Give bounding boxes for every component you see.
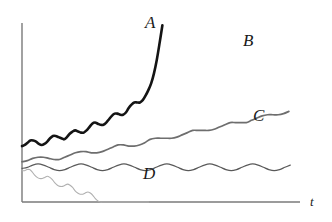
series-curve-a	[22, 25, 162, 146]
series-label-c: C	[253, 107, 264, 124]
series-label-d: D	[143, 165, 155, 182]
x-axis-label: t	[310, 195, 314, 208]
chart-plot-area	[0, 0, 332, 222]
series-label-a: A	[145, 14, 155, 31]
chart-container: A B C D t	[0, 0, 332, 222]
series-label-b: B	[243, 32, 253, 49]
series-curve-b	[22, 111, 289, 161]
series-curve-c	[22, 164, 290, 171]
series-group	[22, 25, 290, 202]
series-curve-d	[22, 169, 148, 202]
